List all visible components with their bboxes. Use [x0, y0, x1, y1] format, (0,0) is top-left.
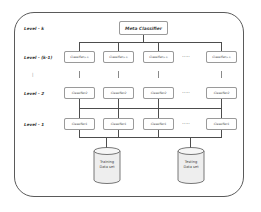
ellipsis: .....	[182, 88, 190, 94]
level-gap-marker	[158, 71, 159, 78]
dataset-label-line: Data set	[178, 165, 204, 170]
classifier-level-1-box: Classifier1	[103, 118, 134, 130]
classifier-label: Classifier1	[151, 122, 167, 126]
connector-line	[79, 130, 80, 137]
classifier-superscript: (k-1)	[163, 56, 168, 58]
connector-bus-top	[79, 42, 222, 43]
classifier-level-2-box: Classifier2	[64, 87, 95, 99]
diagram-frame	[14, 12, 244, 197]
connector-line	[158, 130, 159, 137]
classifier-label: Classifier	[70, 55, 84, 59]
classifier-label: Classifier	[212, 55, 226, 59]
classifier-label: Classifier2	[111, 91, 127, 95]
classifier-label: Classifier1	[214, 122, 230, 126]
classifier-superscript: (k-1)	[84, 56, 89, 58]
level-label-1: Level - 1	[24, 122, 44, 127]
meta-classifier-label: Meta Classifier	[125, 26, 162, 31]
training-dataset-label: Training Data set	[94, 160, 120, 169]
connector-line	[118, 42, 119, 51]
classifier-label: Classifier2	[151, 91, 167, 95]
level-label-ellipsis: |	[32, 72, 33, 77]
connector-line	[143, 35, 144, 42]
classifier-level-2-box: Classifier2	[103, 87, 134, 99]
connector-line	[221, 42, 222, 51]
classifier-level-1-box: Classifier1	[64, 118, 95, 130]
level-gap-marker	[221, 71, 222, 78]
classifier-label: Classifier1	[111, 122, 127, 126]
connector-line	[158, 42, 159, 51]
connector-line	[118, 130, 119, 137]
connector-line	[221, 130, 222, 137]
classifier-label: Classifier2	[72, 91, 88, 95]
classifier-label: Classifier	[149, 55, 163, 59]
level-gap-marker	[79, 71, 80, 78]
connector-bus-middle	[79, 108, 222, 109]
meta-classifier-box: Meta Classifier	[119, 21, 168, 35]
classifier-level-2-box: Classifier2	[206, 87, 237, 99]
connector-line	[79, 42, 80, 51]
level-label-2: Level - 2	[24, 91, 44, 96]
classifier-k-minus-1-box: Classifier(k-1)	[64, 51, 95, 63]
classifier-k-minus-1-box: Classifier(k-1)	[206, 51, 237, 63]
level-gap-marker	[118, 71, 119, 78]
ellipsis: .....	[182, 119, 190, 125]
classifier-superscript: (k-1)	[226, 56, 231, 58]
classifier-level-2-box: Classifier2	[143, 87, 174, 99]
classifier-k-minus-1-box: Classifier(k-1)	[103, 51, 134, 63]
classifier-level-1-box: Classifier1	[206, 118, 237, 130]
level-label-k: Level - k	[24, 26, 44, 31]
testing-dataset-label: Testing Data set	[178, 160, 204, 169]
connector-bus-bottom	[79, 137, 222, 138]
dataset-label-line: Data set	[94, 165, 120, 170]
classifier-label: Classifier	[109, 55, 123, 59]
classifier-k-minus-1-box: Classifier(k-1)	[143, 51, 174, 63]
classifier-label: Classifier2	[214, 91, 230, 95]
classifier-superscript: (k-1)	[123, 56, 128, 58]
classifier-label: Classifier1	[72, 122, 88, 126]
classifier-level-1-box: Classifier1	[143, 118, 174, 130]
ellipsis: .....	[182, 52, 190, 58]
level-label-k-minus-1: Level - (k-1)	[24, 55, 52, 60]
